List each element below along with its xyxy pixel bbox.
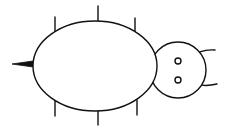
eye-top [175, 58, 181, 64]
bug-drawing [0, 0, 228, 133]
eye-bottom [175, 77, 181, 83]
bug-diagram [0, 0, 228, 133]
body [33, 21, 157, 111]
tail-spike [12, 61, 33, 67]
head [150, 42, 206, 98]
